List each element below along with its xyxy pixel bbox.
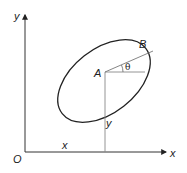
angle-theta-label: θ <box>125 62 130 72</box>
x-coordinate-label: x <box>61 139 68 151</box>
x-axis-label: x <box>169 147 176 159</box>
body-outline <box>43 23 166 139</box>
origin-label: O <box>13 153 22 165</box>
y-coordinate-label: y <box>105 117 113 129</box>
point-b-label: B <box>139 38 146 50</box>
diagram-svg: y x O A B θ y x <box>0 0 187 173</box>
diagram-canvas: y x O A B θ y x <box>0 0 187 173</box>
y-axis-label: y <box>13 10 21 22</box>
point-a-label: A <box>93 67 101 79</box>
angle-arc <box>122 65 124 72</box>
